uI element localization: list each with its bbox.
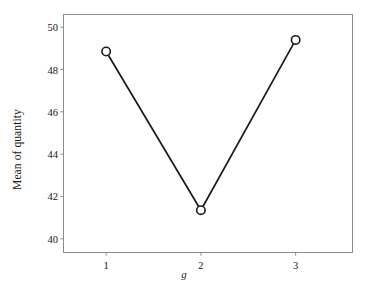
x-axis-label: g [0, 268, 368, 280]
chart-figure: Mean of quantity 404244464850 123 g [0, 0, 368, 299]
x-axis-tick-labels: 123 [0, 0, 368, 299]
